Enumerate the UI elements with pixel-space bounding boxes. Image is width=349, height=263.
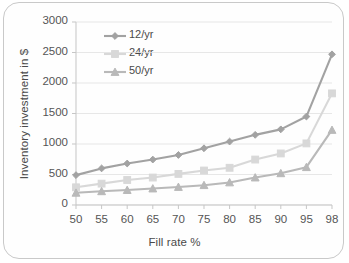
line-chart: Inventory investment in $ Fill rate % 05…: [0, 0, 349, 263]
grid-lines: [72, 22, 332, 205]
plot-area: [0, 0, 349, 263]
x-tick-marks: [76, 205, 332, 209]
legend-markers: [104, 33, 126, 76]
